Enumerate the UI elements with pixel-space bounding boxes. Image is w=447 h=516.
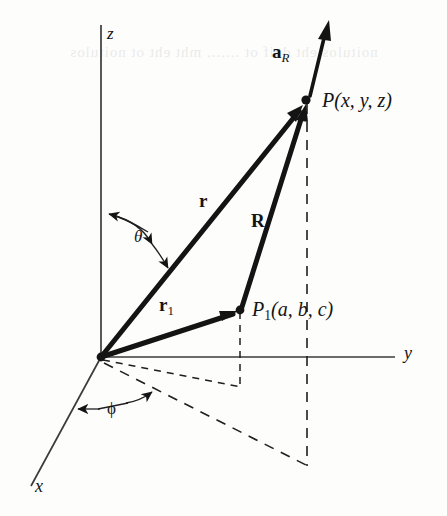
vector-diagram-figure: noitulos eht dnif ot ....... mht eht ot …	[0, 0, 447, 516]
point-label-P1: P1(a, b, c)	[252, 299, 333, 322]
vector-R	[241, 104, 308, 310]
point-label-P-coords: (x, y, z)	[334, 89, 392, 111]
projection-line-p-floor	[104, 363, 308, 466]
axis-x	[31, 357, 101, 486]
vector-label-r1-subscript: 1	[167, 303, 173, 318]
angle-label-phi: ϕ	[107, 400, 116, 417]
vector-label-aR-subscript: R	[282, 50, 290, 65]
vector-label-aR: aR	[272, 42, 289, 65]
point-P-dot	[301, 95, 310, 104]
point-label-P1-base: P	[252, 298, 264, 320]
point-label-P-base: P	[322, 89, 334, 111]
axis-label-x: x	[35, 477, 43, 495]
axis-label-z: z	[107, 25, 114, 42]
axis-label-y: y	[404, 344, 412, 362]
vector-label-R: R	[251, 211, 265, 230]
point-label-P: P(x, y, z)	[322, 90, 392, 110]
vector-label-r: r	[199, 191, 207, 210]
vector-label-r1: r1	[159, 295, 174, 318]
point-P1-dot	[236, 306, 245, 315]
diagram-canvas	[0, 0, 447, 516]
angle-label-theta: θ	[134, 228, 142, 245]
point-label-P1-subscript: 1	[264, 308, 271, 323]
vector-aR	[310, 20, 331, 96]
point-label-P1-coords: (a, b, c)	[271, 298, 333, 320]
vector-label-aR-base: a	[272, 41, 282, 62]
origin-dot	[97, 353, 106, 362]
